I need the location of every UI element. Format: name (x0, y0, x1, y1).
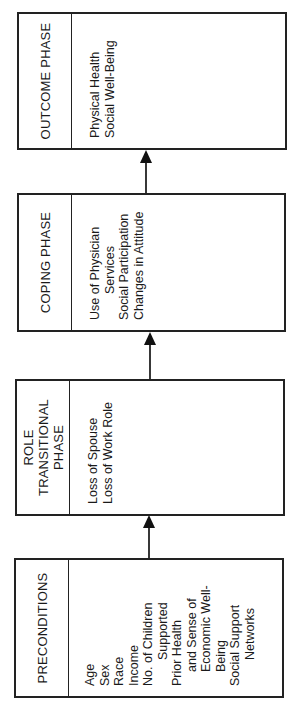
coping-item: Changes in Attitude (132, 195, 147, 320)
precondition-item: Age (83, 560, 98, 686)
arrow-right-icon (139, 514, 159, 559)
outcome-title: OUTCOME PHASE (19, 14, 72, 148)
coping-item: Use of Physician (88, 195, 103, 320)
arrow-right-icon (136, 149, 156, 194)
outcome-item: Physical Health (88, 14, 103, 138)
outcome-box: OUTCOME PHASE Physical Health Social Wel… (17, 12, 287, 150)
precondition-item: Networks (243, 560, 258, 686)
outcome-title-text: OUTCOME PHASE (38, 23, 53, 140)
arrow-right-icon (140, 331, 160, 380)
precondition-item: and Sense of (185, 560, 200, 686)
role-title-line: PHASE (51, 425, 66, 470)
preconditions-box: PRECONDITIONS Age Sex Race Income No. of… (14, 558, 284, 698)
role-transitional-box: ROLE TRANSITIONAL PHASE Loss of Spouse L… (15, 379, 285, 516)
coping-title-text: COPING PHASE (38, 212, 53, 313)
phase-flow-diagram: PRECONDITIONS Age Sex Race Income No. of… (0, 0, 298, 716)
coping-title: COPING PHASE (19, 195, 72, 330)
outcome-items: Physical Health Social Well-Being (72, 14, 285, 148)
precondition-item: Being (214, 560, 229, 686)
precondition-item: Race (112, 560, 127, 686)
coping-item: Social Participation (117, 195, 132, 320)
precondition-item: Economic Well- (199, 560, 214, 686)
precondition-item: Prior Health (170, 560, 185, 686)
outcome-item: Social Well-Being (103, 14, 118, 138)
precondition-item: Supported (156, 560, 171, 686)
precondition-item: No. of Children (141, 560, 156, 686)
coping-item: Services (103, 195, 118, 320)
precondition-item: Social Support (228, 560, 243, 686)
role-transitional-items: Loss of Spouse Loss of Work Role (70, 381, 283, 514)
role-title-line: ROLE (21, 429, 36, 465)
preconditions-title: PRECONDITIONS (16, 560, 69, 696)
role-item: Loss of Spouse (86, 381, 101, 504)
role-transitional-title: ROLE TRANSITIONAL PHASE (17, 381, 70, 514)
coping-items: Use of Physician Services Social Partici… (72, 195, 284, 330)
preconditions-title-text: PRECONDITIONS (35, 573, 50, 684)
role-title-line: TRANSITIONAL (36, 399, 51, 496)
role-item: Loss of Work Role (101, 381, 116, 504)
preconditions-items: Age Sex Race Income No. of Children Supp… (69, 560, 282, 696)
precondition-item: Income (127, 560, 142, 686)
coping-box: COPING PHASE Use of Physician Services S… (17, 193, 286, 332)
precondition-item: Sex (98, 560, 113, 686)
